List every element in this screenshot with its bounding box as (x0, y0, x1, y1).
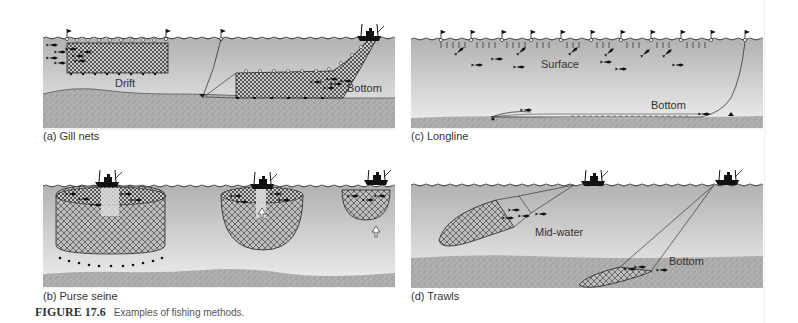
label-bottom-gillnet: Bottom (347, 82, 382, 94)
figure-number: FIGURE 17.6 (35, 305, 106, 319)
caption-gill-nets: (a) Gill nets (43, 130, 99, 142)
caption-trawls: (d) Trawls (411, 290, 459, 302)
longline-illustration: Surface Bottom (411, 18, 763, 130)
trawls-illustration: Mid-water Bottom (411, 170, 763, 288)
caption-purse-seine: (b) Purse seine (43, 290, 118, 302)
panel-longline: Surface Bottom (411, 18, 763, 130)
label-bottom-longline: Bottom (651, 99, 686, 111)
label-drift: Drift (115, 77, 135, 89)
purse-seine-illustration (43, 170, 395, 288)
label-bottom-trawl: Bottom (669, 255, 704, 267)
figure-caption: FIGURE 17.6 Examples of fishing methods. (35, 305, 244, 320)
label-mid-water: Mid-water (535, 226, 584, 238)
caption-longline: (c) Longline (411, 130, 468, 142)
panel-trawls: Mid-water Bottom (411, 170, 763, 288)
page-edge (764, 0, 765, 323)
panel-purse-seine (43, 170, 395, 288)
gill-nets-illustration: Drift Bottom (43, 18, 395, 130)
panel-gill-nets: Drift Bottom (43, 18, 395, 130)
figure-caption-text: Examples of fishing methods. (114, 307, 245, 318)
label-surface: Surface (541, 58, 579, 70)
